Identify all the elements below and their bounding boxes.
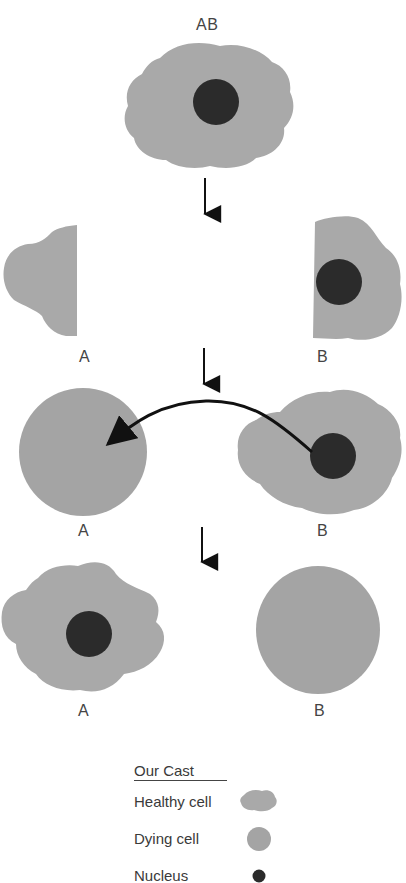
nucleus-icon	[193, 79, 239, 125]
cell-b-dying-shape	[256, 566, 380, 694]
healthy-cell-icon	[240, 790, 276, 811]
label-a-stage4: A	[78, 702, 89, 720]
label-a-stage3: A	[78, 522, 89, 540]
nucleus-icon	[253, 870, 266, 883]
dying-cell-icon	[247, 827, 271, 851]
label-b-stage4: B	[314, 702, 325, 720]
cell-a-half-shape	[3, 225, 77, 336]
cell-b-healthy	[238, 390, 402, 515]
nucleus-icon	[316, 259, 362, 305]
label-b-stage3: B	[317, 522, 328, 540]
cell-nucleus-transfer-diagram: AB A B A B A B Our Cast Healthy cell Dyi…	[0, 0, 406, 883]
cell-ab-healthy	[125, 43, 294, 168]
label-a-stage2: A	[79, 348, 90, 366]
legend-item-healthy-cell: Healthy cell	[134, 793, 212, 810]
legend-title: Our Cast	[134, 762, 227, 781]
legend-item-dying-cell: Dying cell	[134, 830, 199, 847]
cell-b-half	[313, 216, 402, 340]
label-ab: AB	[196, 16, 218, 34]
cell-a-healthy	[2, 562, 165, 691]
legend-item-nucleus: Nucleus	[134, 867, 188, 883]
nucleus-icon	[66, 611, 112, 657]
label-b-stage2: B	[317, 348, 328, 366]
diagram-canvas	[0, 0, 406, 883]
cell-a-dying-shape	[19, 388, 147, 516]
nucleus-icon	[310, 433, 356, 479]
